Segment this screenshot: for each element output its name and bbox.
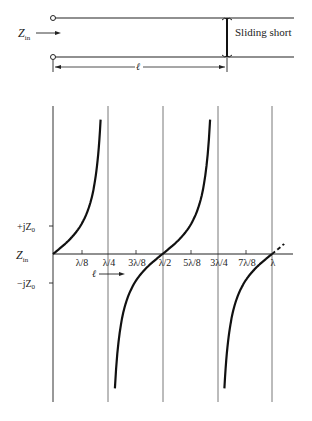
sliding-short-label: Sliding short	[235, 26, 292, 38]
reactance-curve-3	[224, 254, 272, 388]
top-terminal-icon	[51, 16, 56, 21]
bottom-terminal-icon	[51, 55, 56, 60]
zin-input-label: Zin	[18, 26, 31, 42]
x-tick-4: λ/2	[159, 257, 172, 268]
x-tick-8: λ	[271, 257, 276, 268]
x-tick-6: 3λ/4	[210, 257, 228, 268]
y-axis-label: Zin	[16, 248, 29, 264]
impedance-plot: +jZ0 −jZ0 Zin λ/8 λ/4 3λ/8 λ/2 5λ/8 3λ/4…	[16, 106, 293, 402]
length-arrow-icon	[99, 272, 125, 276]
x-tick-5: 5λ/8	[183, 257, 201, 268]
x-tick-7: 7λ/8	[238, 257, 256, 268]
input-arrow-icon	[36, 31, 61, 35]
y-tick-minus-jz0: −jZ0	[17, 278, 36, 291]
reactance-curve-1	[53, 120, 101, 254]
transmission-line-diagram: Sliding short Zin ℓ	[18, 16, 294, 73]
x-tick-3: 3λ/8	[128, 257, 146, 268]
x-tick-1: λ/8	[76, 257, 89, 268]
arrow-right-icon	[219, 65, 225, 69]
arrow-left-icon	[55, 65, 61, 69]
length-arrow-label: ℓ	[92, 268, 96, 279]
y-tick-plus-jz0: +jZ0	[17, 221, 36, 234]
x-tick-2: λ/4	[103, 257, 116, 268]
length-label: ℓ	[136, 61, 140, 72]
reactance-curve-continuation	[272, 244, 284, 254]
sliding-short-icon	[222, 18, 232, 57]
